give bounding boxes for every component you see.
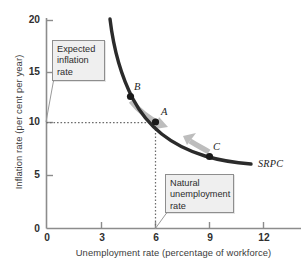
point-label-a: A [161, 106, 167, 117]
movement-arrows [131, 101, 209, 152]
callout-expected-line-2: inflation [57, 55, 100, 66]
x-axis-ticks [102, 222, 264, 229]
x-tick-label-12: 12 [253, 232, 275, 243]
expected-inflation-rate-callout: Expected inflation rate [52, 40, 105, 81]
point-label-c: C [213, 141, 220, 152]
phillips-curve-figure: Inflation rate (per cent per year) Unemp… [0, 0, 304, 264]
x-tick-label-6: 6 [145, 232, 167, 243]
x-axis-title: Unemployment rate (percentage of workfor… [47, 247, 300, 258]
movement-arrowheads [155, 117, 196, 145]
y-tick-label-20: 20 [18, 14, 40, 25]
natural-callout-leader [155, 211, 168, 229]
x-tick-label-0: 0 [36, 232, 58, 243]
x-tick-label-9: 9 [199, 232, 221, 243]
callout-expected-line-1: Expected [57, 44, 100, 55]
callout-natural-line-3: rate [170, 201, 229, 212]
srpc-curve [110, 19, 251, 164]
y-tick-label-15: 15 [18, 66, 40, 77]
callout-expected-line-3: rate [57, 67, 100, 78]
y-tick-label-5: 5 [18, 169, 40, 180]
point-marker-c [206, 153, 213, 160]
point-marker-a [152, 118, 159, 125]
point-label-b: B [134, 81, 140, 92]
callout-natural-line-1: Natural [170, 178, 229, 189]
plot-canvas [0, 0, 304, 264]
callout-natural-line-2: unemployment [170, 189, 229, 200]
natural-unemployment-rate-callout: Natural unemployment rate [165, 174, 234, 213]
x-tick-label-3: 3 [91, 232, 113, 243]
point-marker-b [127, 93, 134, 100]
y-tick-label-10: 10 [18, 116, 40, 127]
srpc-curve-label: SRPC [258, 158, 283, 169]
